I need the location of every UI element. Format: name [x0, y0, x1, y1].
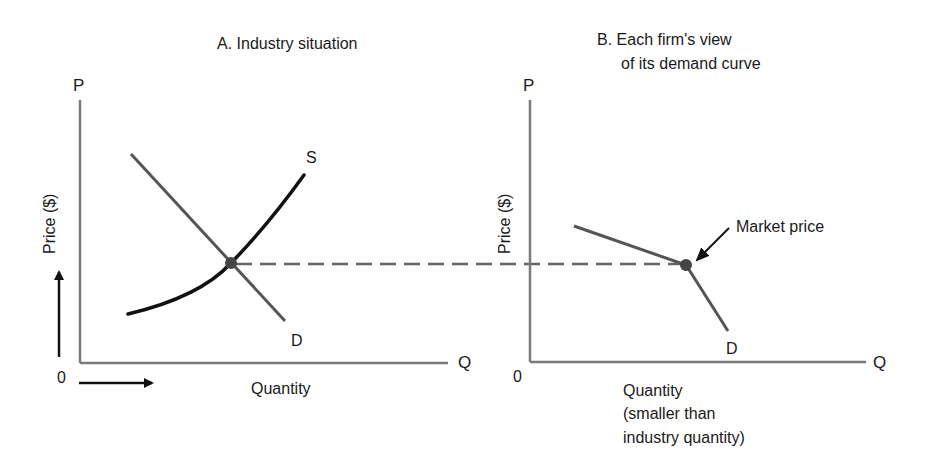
market-price-annotation: Market price	[736, 217, 824, 236]
panel-a-y-axis-label: Price ($)	[41, 194, 59, 254]
panel-a-axes	[80, 100, 448, 363]
panel-b-origin: 0	[513, 367, 522, 386]
panel-b-x-axis-letter: Q	[873, 353, 886, 372]
panel-a-origin: 0	[57, 368, 66, 387]
panel-b-y-axis-letter: P	[523, 76, 534, 95]
panel-a-title: A. Industry situation	[217, 34, 358, 53]
panel-b-x-axis-label-line2: (smaller than	[623, 404, 715, 423]
panel-b-market-price-point	[680, 259, 692, 271]
panel-b-x-axis-label-line1: Quantity	[623, 381, 683, 400]
panel-a-x-axis-letter: Q	[458, 353, 471, 372]
market-price-pointer-arrow-icon	[697, 228, 729, 260]
panel-a-demand-label: D	[291, 331, 303, 350]
panel-a-supply-label: S	[306, 148, 317, 167]
panel-a-equilibrium-point	[225, 257, 237, 269]
panel-b-x-axis-label-line3: industry quantity)	[623, 428, 745, 447]
panel-b-title-line2: of its demand curve	[621, 54, 761, 73]
panel-b-demand-label: D	[726, 339, 738, 358]
panel-a-x-axis-label: Quantity	[251, 379, 311, 398]
panel-b-kinked-demand-curve	[574, 226, 728, 331]
diagram-canvas	[0, 0, 935, 474]
panel-a-y-axis-letter: P	[73, 76, 84, 95]
panel-a-demand-line	[131, 154, 285, 321]
panel-b-title-line1: B. Each firm's view	[597, 30, 732, 49]
panel-b-y-axis-label: Price ($)	[496, 194, 514, 254]
